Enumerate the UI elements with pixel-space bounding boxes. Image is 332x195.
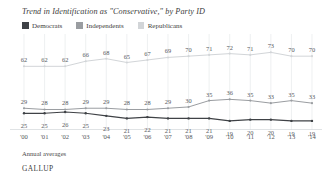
x-axis-tick-label: '11 — [247, 133, 255, 140]
data-point-label: 35 — [206, 92, 212, 98]
plot-area: 2525262523212221212119202019192928282929… — [10, 34, 322, 130]
x-axis-tick-label: '09 — [205, 133, 213, 140]
data-point-label: 25 — [41, 123, 47, 129]
data-point-label: 66 — [83, 52, 89, 58]
legend-swatch-democrats — [22, 22, 29, 29]
legend-item-democrats: Democrats — [22, 22, 62, 30]
legend-swatch-republicans — [138, 22, 145, 29]
chart-footnote: Annual averages — [22, 150, 322, 157]
data-point-label: 28 — [41, 100, 47, 106]
gallup-trend-chart: Trend in Identification as "Conservative… — [0, 0, 332, 195]
gallup-brand: GALLUP — [22, 164, 322, 173]
data-point-label: 70 — [288, 47, 294, 53]
x-axis-tick-label: '08 — [185, 133, 193, 140]
data-point-label: 35 — [288, 92, 294, 98]
x-axis-tick-label: '12 — [267, 133, 275, 140]
x-axis-tick-label: '01 — [41, 133, 49, 140]
data-point-label: 29 — [103, 99, 109, 105]
data-point-label: 70 — [309, 47, 315, 53]
data-point-label: 29 — [165, 99, 171, 105]
x-axis-tick-label: '00 — [20, 133, 28, 140]
data-point-label: 62 — [41, 57, 47, 63]
x-axis-tick-label: '14 — [308, 133, 316, 140]
data-point-label: 25 — [83, 123, 89, 129]
data-point-label: 28 — [144, 100, 150, 106]
legend-item-republicans: Republicans — [138, 22, 183, 30]
data-point-label: 26 — [62, 122, 68, 128]
x-axis-tick-label: '02 — [61, 133, 69, 140]
data-point-label: 71 — [206, 46, 212, 52]
x-axis-tick-label: '13 — [288, 133, 296, 140]
data-point-label: 29 — [21, 99, 27, 105]
x-axis-tick-label: '07 — [164, 133, 172, 140]
chart-title: Trend in Identification as "Conservative… — [22, 7, 322, 16]
data-point-label: 28 — [124, 100, 130, 106]
data-point-label: 71 — [247, 46, 253, 52]
legend-label-democrats: Democrats — [32, 22, 62, 30]
data-point-label: 28 — [62, 100, 68, 106]
x-axis-tick-label: '06 — [144, 133, 152, 140]
data-point-label: 62 — [62, 57, 68, 63]
data-point-label: 65 — [124, 54, 130, 60]
data-point-label: 67 — [144, 51, 150, 57]
data-point-label: 29 — [83, 99, 89, 105]
legend-swatch-independents — [76, 22, 83, 29]
x-axis-tick-label: '03 — [82, 133, 90, 140]
data-point-label: 33 — [309, 94, 315, 100]
data-point-label: 68 — [103, 50, 109, 56]
data-point-label: 35 — [247, 92, 253, 98]
data-point-label: 62 — [21, 57, 27, 63]
x-axis-tick-label: '05 — [123, 133, 131, 140]
data-point-label: 69 — [165, 48, 171, 54]
data-point-label: 70 — [185, 47, 191, 53]
x-axis-labels: '00'01'02'03'04'05'06'07'08'09'10'11'12'… — [10, 131, 322, 144]
data-point-label: 33 — [268, 94, 274, 100]
chart-legend: Democrats Independents Republicans — [22, 20, 322, 31]
data-point-label: 73 — [268, 43, 274, 49]
x-axis-tick-label: '10 — [226, 133, 234, 140]
x-axis-tick-label: '04 — [102, 133, 110, 140]
data-point-label: 36 — [227, 90, 233, 96]
legend-item-independents: Independents — [76, 22, 123, 30]
legend-label-republicans: Republicans — [148, 22, 183, 30]
data-point-label: 25 — [21, 123, 27, 129]
data-point-label: 72 — [227, 45, 233, 51]
data-point-label: 30 — [185, 98, 191, 104]
legend-label-independents: Independents — [86, 22, 123, 30]
